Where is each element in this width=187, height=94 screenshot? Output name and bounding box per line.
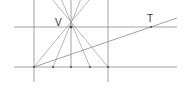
baseline-point <box>33 66 35 68</box>
baseline-point <box>89 66 91 68</box>
vertex-point <box>70 26 73 29</box>
baseline-point <box>70 66 72 68</box>
tangent-point <box>150 26 152 28</box>
ray-2 <box>53 0 83 67</box>
geometry-diagram: V T <box>0 0 187 94</box>
vertex-label: V <box>55 17 62 28</box>
tangent-label: T <box>147 13 153 24</box>
baseline-point <box>52 66 54 68</box>
baseline-point <box>107 66 109 68</box>
ray-4 <box>49 0 108 67</box>
